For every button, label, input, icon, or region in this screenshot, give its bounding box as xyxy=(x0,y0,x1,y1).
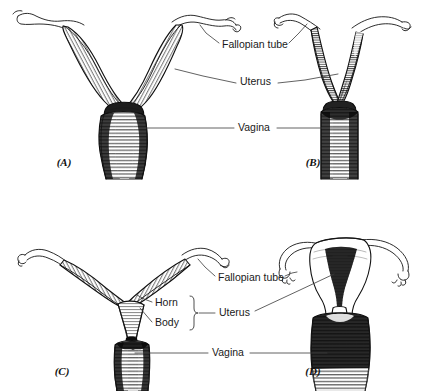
label-fallopian-tube-top: Fallopian tube xyxy=(222,38,288,50)
label-uterus-top: Uterus xyxy=(240,75,271,87)
label-vagina-bottom: Vagina xyxy=(212,346,244,358)
label-fallopian-tube-bottom: Fallopian tube xyxy=(218,271,284,283)
label-horn: Horn xyxy=(155,296,178,308)
panel-d-vagina xyxy=(311,313,370,391)
panel-c-label: (C) xyxy=(55,365,70,378)
label-vagina-top: Vagina xyxy=(238,121,270,133)
panel-a-label: (A) xyxy=(57,156,72,169)
figure-root: (A) xyxy=(0,0,445,391)
panel-b-vagina xyxy=(321,108,358,180)
comparative-uterus-figure: (A) xyxy=(0,0,445,391)
panel-a-vagina xyxy=(99,112,147,180)
panel-d-label: (D) xyxy=(305,365,320,378)
panel-b-label: (B) xyxy=(306,156,321,169)
figure-background xyxy=(0,0,445,391)
label-uterus-bottom: Uterus xyxy=(219,306,250,318)
label-body: Body xyxy=(155,316,180,328)
panel-c-vagina xyxy=(114,341,150,391)
